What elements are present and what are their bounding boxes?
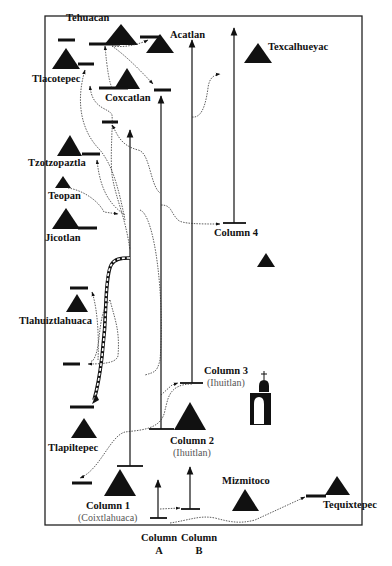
tlapiltepec-hill-icon bbox=[71, 418, 97, 438]
label-column-a: Column A bbox=[140, 533, 178, 556]
col2-hill-icon bbox=[174, 402, 206, 430]
label-mizmitoco: Mizmitoco bbox=[222, 476, 270, 487]
sublabel-column-3: (Ihuitlan) bbox=[207, 378, 245, 388]
label-coxcatlan: Coxcatlan bbox=[105, 93, 151, 104]
label-column-1: Column 1 bbox=[86, 501, 130, 512]
label-column-3: Column 3 bbox=[204, 366, 248, 377]
label-texcalhueyac: Texcalhueyac bbox=[268, 42, 328, 53]
label-tlacotepec: Tlacotepec bbox=[32, 74, 80, 85]
label-tlapiltepec: Tlapiltepec bbox=[48, 443, 98, 454]
label-acatlan: Acatlan bbox=[170, 30, 205, 41]
label-column-a-letter: A bbox=[140, 546, 178, 557]
unnamed-hill-icon bbox=[257, 253, 275, 267]
teopan-hill-icon bbox=[55, 176, 71, 188]
sublabel-column-1: (Coixtlahuaca) bbox=[78, 513, 137, 523]
label-column-a-word: Column bbox=[140, 533, 178, 544]
label-column-4: Column 4 bbox=[214, 228, 258, 239]
migration-diagram bbox=[0, 0, 392, 566]
label-column-b-word: Column bbox=[180, 533, 218, 544]
jicotlan-hill-icon bbox=[52, 208, 80, 229]
tehuacan-hill-icon bbox=[104, 24, 138, 45]
tlacotepec-hill-icon bbox=[52, 48, 80, 69]
double-route bbox=[92, 258, 130, 404]
label-column-b-letter: B bbox=[180, 546, 218, 557]
label-tequixtepec: Tequixtepec bbox=[323, 500, 377, 511]
label-column-2: Column 2 bbox=[170, 436, 214, 447]
label-jicotlan: Jicotlan bbox=[45, 233, 81, 244]
label-teopan: Teopan bbox=[48, 191, 81, 202]
coxcatlan-hill-icon bbox=[114, 68, 140, 89]
label-tzotzopaztla: Tzotzopaztla bbox=[28, 158, 86, 169]
sublabel-column-2: (Ihuitlan) bbox=[173, 448, 211, 458]
tequixtepec-hill-icon bbox=[325, 476, 350, 495]
col1-hill-icon bbox=[104, 469, 136, 496]
label-column-b: Column B bbox=[180, 533, 218, 556]
label-tlahuiztlahuaca: Tlahuiztlahuaca bbox=[19, 316, 92, 327]
church-icon bbox=[250, 371, 271, 425]
tlahuiztlahuaca-hill-icon bbox=[66, 294, 88, 312]
mizmitoco-hill-icon bbox=[232, 489, 259, 511]
tzotzopaztla-hill-icon bbox=[57, 135, 82, 156]
label-tehuacan: Tehuacan bbox=[66, 13, 109, 24]
